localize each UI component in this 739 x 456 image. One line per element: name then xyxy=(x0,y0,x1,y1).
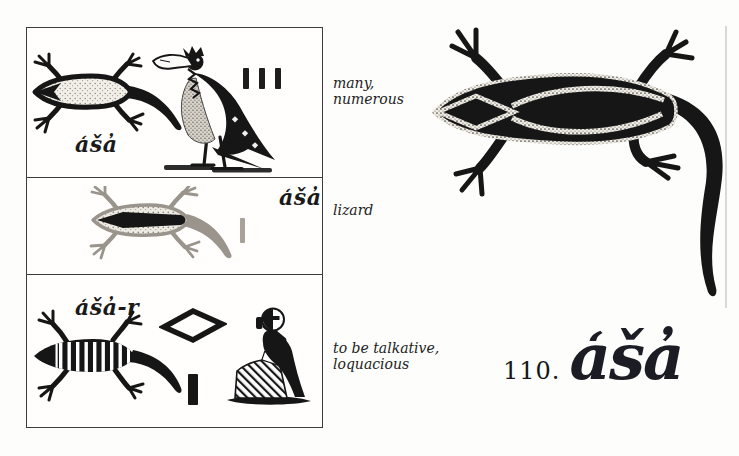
stroke-mark xyxy=(243,68,249,89)
entry-number: 110. xyxy=(503,357,560,385)
seated-man-sign-icon xyxy=(223,307,315,407)
translit-label: a̒ša̓ xyxy=(279,186,321,208)
lizard-plate-illustration xyxy=(424,8,738,304)
entry-transliteration: a̒ša̓ xyxy=(569,325,682,389)
row-divider xyxy=(27,177,322,178)
hieroglyph-table: a̒ša̓ xyxy=(26,27,323,428)
stroke-sign-icon xyxy=(188,374,198,405)
row-divider xyxy=(27,274,322,275)
translit-label: a̒ša̓ xyxy=(75,133,117,155)
vulture-sign-icon xyxy=(148,45,288,175)
page-edge-line xyxy=(725,26,727,308)
stroke-sign-icon xyxy=(240,218,245,243)
striped-lizard-sign-icon xyxy=(87,186,235,266)
stroke-mark xyxy=(259,68,265,89)
gloss-talkative: to be talkative, loquacious xyxy=(333,341,448,373)
entry-heading: 110. a̒ša̓ xyxy=(503,325,682,389)
stroke-mark xyxy=(275,68,281,89)
plural-strokes-sign-icon xyxy=(243,68,281,89)
book-page: a̒ša̓ xyxy=(0,0,739,456)
lozenge-r-sign-icon xyxy=(159,307,227,344)
